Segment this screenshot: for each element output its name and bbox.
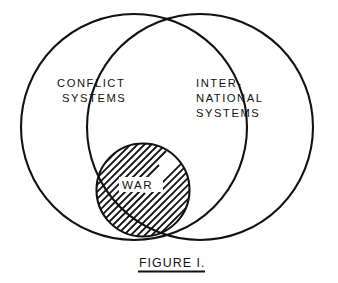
label-conflict-systems-line2: SYSTEMS: [62, 92, 126, 104]
war-hatch-fill: [88, 42, 198, 250]
figure-caption: FIGURE I.: [139, 256, 206, 270]
figure-container: WAR CONFLICT SYSTEMS INTER- NATIONAL SYS…: [0, 0, 338, 283]
circle-international-systems: [87, 14, 313, 240]
label-international-systems-line3: SYSTEMS: [196, 107, 260, 119]
label-war: WAR: [122, 178, 153, 191]
circle-conflict-systems: [21, 14, 247, 240]
label-international-systems-line2: NATIONAL: [196, 92, 264, 104]
label-conflict-systems-line1: CONFLICT: [57, 77, 125, 89]
label-international-systems-line1: INTER-: [196, 77, 243, 89]
venn-diagram: WAR CONFLICT SYSTEMS INTER- NATIONAL SYS…: [0, 0, 338, 283]
